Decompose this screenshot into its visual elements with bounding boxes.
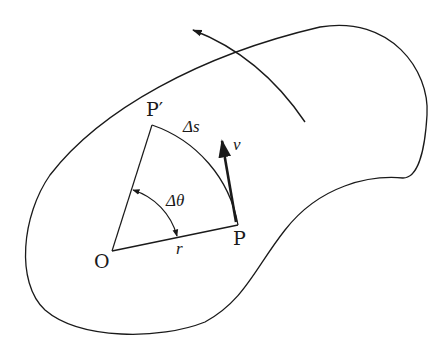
label-radius: r	[176, 240, 183, 257]
region-boundary	[26, 25, 428, 334]
label-origin: O	[94, 252, 110, 271]
label-arc-length: Δs	[183, 118, 200, 135]
arc-delta-s	[152, 125, 238, 225]
label-point-p-prime: P′	[146, 100, 163, 119]
label-angle: Δθ	[166, 192, 184, 209]
motion-direction-arrow	[193, 30, 305, 122]
radius-line-op-prime	[112, 125, 152, 251]
label-point-p: P	[233, 229, 246, 248]
diagram-figure: P′ Δs v Δθ P O r	[0, 0, 447, 350]
label-velocity: v	[233, 136, 241, 153]
